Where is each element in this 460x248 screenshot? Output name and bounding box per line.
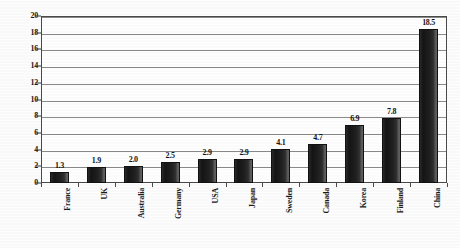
bar — [198, 159, 217, 183]
bar — [50, 172, 69, 183]
x-axis-tick-mark — [78, 183, 79, 187]
x-axis-category-label: UK — [100, 188, 110, 244]
bar — [87, 167, 106, 183]
bars-container: 1.31.92.02.52.92.94.14.76.97.818.5 — [41, 16, 447, 183]
x-axis-category-label: Germany — [174, 188, 184, 244]
bar — [345, 125, 364, 183]
x-axis-tick-mark — [262, 183, 263, 187]
x-axis-category-label: Canada — [322, 188, 332, 244]
bar-chart: 02468101214161820 1.31.92.02.52.92.94.14… — [0, 0, 460, 248]
bar — [419, 29, 438, 183]
bar-value-label: 2.5 — [152, 152, 188, 160]
bar-value-label: 2.0 — [115, 156, 151, 164]
bar-slot: 2.9 — [226, 16, 263, 183]
x-axis-category-label: China — [433, 188, 443, 244]
x-axis-tick-mark — [226, 183, 227, 187]
x-axis-tick-mark — [299, 183, 300, 187]
x-axis-tick-mark — [189, 183, 190, 187]
bar — [271, 149, 290, 183]
bar-slot: 4.1 — [262, 16, 299, 183]
x-axis-category-label: Sweden — [285, 188, 295, 244]
bar-slot: 18.5 — [410, 16, 447, 183]
bar-value-label: 2.9 — [226, 149, 262, 157]
bar-slot: 2.5 — [152, 16, 189, 183]
bar — [161, 162, 180, 183]
bar-slot: 4.7 — [299, 16, 336, 183]
bar — [234, 159, 253, 183]
x-axis-tick-mark — [115, 183, 116, 187]
bar-slot: 6.9 — [336, 16, 373, 183]
x-axis-category-label: Finland — [396, 188, 406, 244]
x-axis-tick-mark — [373, 183, 374, 187]
x-axis-category-label: Australia — [137, 188, 147, 244]
bar — [308, 144, 327, 183]
bar-slot: 2.0 — [115, 16, 152, 183]
x-axis-category-label: Japan — [248, 188, 258, 244]
bar-value-label: 7.8 — [374, 108, 410, 116]
bar-value-label: 2.9 — [189, 149, 225, 157]
bar-value-label: 1.9 — [78, 157, 114, 165]
x-axis-category-label: France — [63, 188, 73, 244]
bar-slot: 1.3 — [41, 16, 78, 183]
x-axis-tick-mark — [336, 183, 337, 187]
bar-value-label: 18.5 — [411, 19, 447, 27]
x-axis-tick-mark — [41, 183, 42, 187]
bar-slot: 7.8 — [373, 16, 410, 183]
bar-value-label: 1.3 — [41, 162, 77, 170]
bar-value-label: 4.1 — [263, 139, 299, 147]
bar-value-label: 4.7 — [300, 134, 336, 142]
x-axis-category-label: Korea — [359, 188, 369, 244]
bar — [382, 118, 401, 183]
bar-value-label: 6.9 — [337, 115, 373, 123]
x-axis-tick-mark — [152, 183, 153, 187]
x-axis-tick-mark — [410, 183, 411, 187]
bar-slot: 2.9 — [189, 16, 226, 183]
bar-slot: 1.9 — [78, 16, 115, 183]
bar — [124, 166, 143, 183]
x-axis-category-label: USA — [211, 188, 221, 244]
x-axis-tick-mark — [447, 183, 448, 187]
